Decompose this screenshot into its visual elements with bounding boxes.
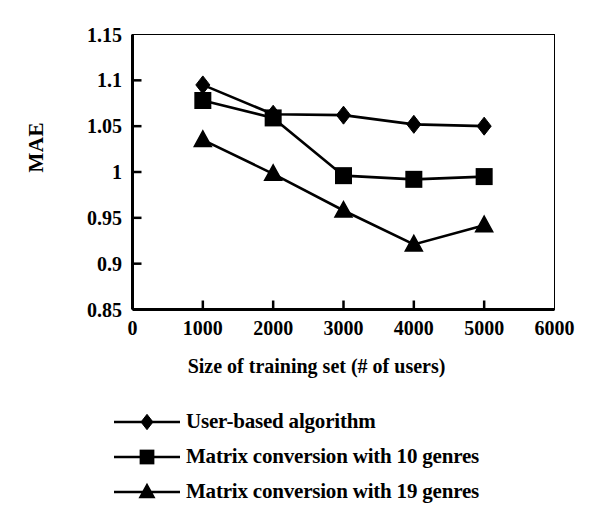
x-axis-tick-labels: 0100020003000400050006000 — [0, 318, 603, 348]
y-tick-label: 1.05 — [50, 116, 122, 136]
y-tick-label: 0.85 — [50, 300, 122, 320]
legend-marker-square-icon — [112, 444, 182, 470]
y-tick-label: 1 — [50, 162, 122, 182]
chart-legend: User-based algorithmMatrix conversion wi… — [112, 404, 542, 509]
legend-item: User-based algorithm — [112, 404, 542, 439]
legend-item-label: Matrix conversion with 10 genres — [186, 446, 479, 467]
legend-marker-diamond-icon — [112, 409, 182, 435]
legend-item-label: User-based algorithm — [186, 411, 375, 432]
x-tick-label: 6000 — [510, 318, 600, 338]
y-tick-label: 1.15 — [50, 25, 122, 45]
chart-figure: MAE 0.850.90.9511.051.11.15 010002000300… — [0, 0, 603, 511]
y-tick-label: 0.9 — [50, 254, 122, 274]
y-tick-label: 0.95 — [50, 208, 122, 228]
legend-item: Matrix conversion with 10 genres — [112, 439, 542, 474]
legend-item: Matrix conversion with 19 genres — [112, 474, 542, 509]
y-tick-label: 1.1 — [50, 70, 122, 90]
legend-marker-triangle-icon — [112, 479, 182, 505]
y-axis-title: MAE — [24, 133, 49, 173]
x-axis-title: Size of training set (# of users) — [0, 355, 603, 378]
y-axis-tick-labels: 0.850.90.9511.051.11.15 — [48, 0, 122, 511]
legend-item-label: Matrix conversion with 19 genres — [186, 481, 479, 502]
